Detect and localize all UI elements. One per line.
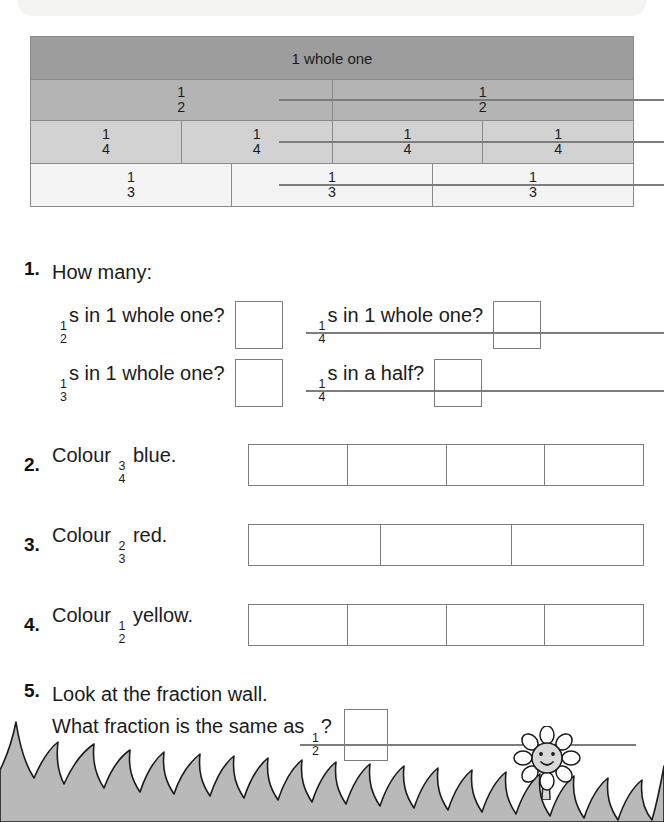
fraction-denominator: 2 <box>59 333 68 346</box>
bar-cell[interactable] <box>446 605 545 645</box>
colour-bar-4[interactable] <box>248 604 644 646</box>
fraction-glyph: 13 <box>59 378 68 404</box>
fraction-glyph: 12 <box>117 620 126 646</box>
bar-cell[interactable] <box>347 605 446 645</box>
bar-cell[interactable] <box>544 605 643 645</box>
answer-box-4[interactable] <box>434 359 482 407</box>
fraction-glyph: 1 3 <box>126 170 136 200</box>
question-2-label-after: blue. <box>133 444 176 466</box>
answer-box-1[interactable] <box>235 301 283 349</box>
fraction-numerator: 1 <box>252 127 262 142</box>
question-1-items: 12s in 1 whole one? 14s in 1 whole one? … <box>58 296 541 412</box>
wall-cell-whole: 1 whole one <box>31 37 633 79</box>
fraction-denominator: 2 <box>176 100 186 115</box>
wall-row-whole: 1 whole one <box>31 37 633 79</box>
bar-cell[interactable] <box>511 525 643 565</box>
bar-cell[interactable] <box>249 445 347 485</box>
question-1-item-3-label: s in 1 whole one? <box>69 362 225 384</box>
fraction-glyph: 1 2 <box>176 85 186 115</box>
question-2-label-before: Colour <box>52 444 111 466</box>
colour-bar-3[interactable] <box>248 524 644 566</box>
fraction-numerator: 1 <box>402 127 412 142</box>
fraction-denominator: 2 <box>311 745 320 758</box>
question-3: 3. Colour 23 red. <box>24 524 167 566</box>
fraction-bar <box>279 99 664 101</box>
question-2: 2. Colour 34 blue. <box>24 444 176 486</box>
question-1-item-2-text: 14s in 1 whole one? <box>317 304 484 346</box>
fraction-glyph: 1 4 <box>101 127 111 157</box>
fraction-bar <box>279 184 664 186</box>
fraction-glyph: 12 <box>311 732 320 758</box>
fraction-denominator: 4 <box>318 333 327 346</box>
question-1-item-3: 13s in 1 whole one? <box>58 359 283 407</box>
question-4: 4. Colour 12 yellow. <box>24 604 193 646</box>
flower-decoration <box>512 726 582 800</box>
fraction-denominator: 3 <box>126 185 136 200</box>
fraction-bar <box>306 332 664 334</box>
answer-box-2[interactable] <box>493 301 541 349</box>
bar-cell[interactable] <box>249 605 347 645</box>
wall-cell-half-2: 1 2 <box>332 80 634 120</box>
question-1-prompt: How many: <box>52 258 152 287</box>
question-1-item-1-label: s in 1 whole one? <box>69 304 225 326</box>
question-1-item-3-text: 13s in 1 whole one? <box>58 362 225 404</box>
question-5-body: Look at the fraction wall. What fraction… <box>52 680 388 761</box>
question-1-number: 1. <box>24 258 52 280</box>
wall-cell-third-1: 1 3 <box>31 164 231 206</box>
fraction-denominator: 2 <box>117 633 126 646</box>
wall-cell-quarter-4: 1 4 <box>482 121 633 163</box>
fraction-numerator: 1 <box>126 170 136 185</box>
bar-cell[interactable] <box>446 445 545 485</box>
question-4-label-after: yellow. <box>133 604 193 626</box>
fraction-denominator: 4 <box>101 142 111 157</box>
answer-box-5[interactable] <box>344 709 388 761</box>
question-1-item-4: 14s in a half? <box>317 359 483 407</box>
question-1-item-1: 12s in 1 whole one? <box>58 301 283 349</box>
bar-cell[interactable] <box>249 525 380 565</box>
fraction-bar <box>306 390 664 392</box>
fraction-glyph: 14 <box>318 378 327 404</box>
fraction-numerator: 1 <box>528 170 538 185</box>
fraction-denominator: 4 <box>117 473 126 486</box>
fraction-glyph: 1 3 <box>528 170 538 200</box>
question-5-line-1: Look at the fraction wall. <box>52 680 388 709</box>
question-5-line-2: What fraction is the same as 12? <box>52 709 388 761</box>
wall-row-quarters: 1 4 1 4 1 4 1 4 <box>31 120 633 163</box>
fraction-numerator: 1 <box>478 85 488 100</box>
question-2-number: 2. <box>24 454 52 476</box>
fraction-glyph: 14 <box>318 320 327 346</box>
question-5-line-2-before: What fraction is the same as <box>52 715 304 737</box>
fraction-glyph: 12 <box>59 320 68 346</box>
bar-cell[interactable] <box>347 445 446 485</box>
fraction-denominator: 2 <box>478 100 488 115</box>
fraction-numerator: 1 <box>101 127 111 142</box>
colour-bar-2[interactable] <box>248 444 644 486</box>
fraction-glyph: 34 <box>117 460 126 486</box>
fraction-bar <box>300 744 636 746</box>
fraction-denominator: 4 <box>553 142 563 157</box>
question-1-item-4-text: 14s in a half? <box>317 362 425 404</box>
question-2-label: Colour 34 blue. <box>52 444 176 486</box>
fraction-denominator: 4 <box>318 391 327 404</box>
question-1-item-4-label: s in a half? <box>327 362 424 384</box>
question-1-row-1: 12s in 1 whole one? 14s in 1 whole one? <box>58 296 541 354</box>
flower-center-icon <box>532 743 562 773</box>
top-banner <box>18 0 646 16</box>
bar-cell[interactable] <box>380 525 512 565</box>
fraction-denominator: 4 <box>402 142 412 157</box>
wall-row-thirds: 1 3 1 3 1 3 <box>31 163 633 206</box>
question-5-line-2-after: ? <box>321 715 332 737</box>
question-1-item-2: 14s in 1 whole one? <box>317 301 542 349</box>
question-5-number: 5. <box>24 680 52 702</box>
fraction-numerator: 1 <box>553 127 563 142</box>
bar-cell[interactable] <box>544 445 643 485</box>
flower-eye-left-icon <box>539 752 543 756</box>
fraction-denominator: 3 <box>528 185 538 200</box>
answer-box-3[interactable] <box>235 359 283 407</box>
fraction-bar <box>279 141 664 143</box>
question-3-number: 3. <box>24 534 52 556</box>
fraction-denominator: 3 <box>327 185 337 200</box>
fraction-numerator: 1 <box>176 85 186 100</box>
question-3-label-after: red. <box>133 524 167 546</box>
question-1-item-1-text: 12s in 1 whole one? <box>58 304 225 346</box>
